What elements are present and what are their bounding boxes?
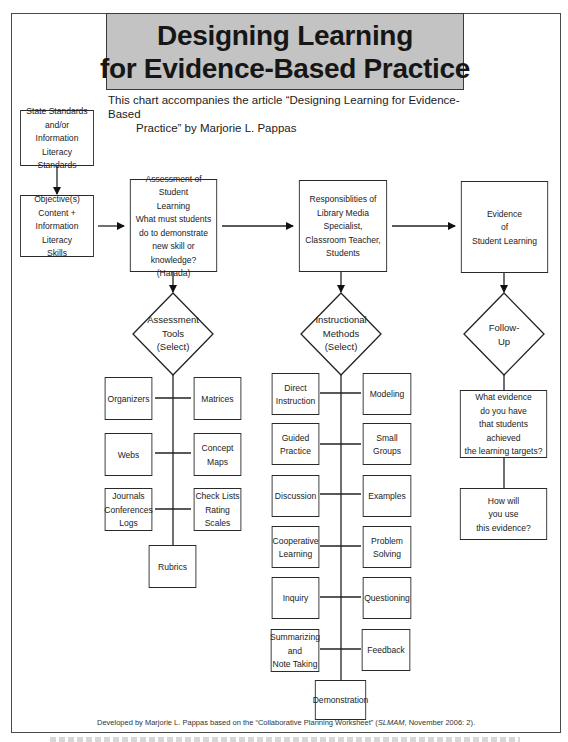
- tool-matrices: Matrices: [194, 377, 242, 420]
- assessment-tools-diamond: Assessment Tools (Select): [133, 313, 213, 354]
- use-evidence-question-box: How will you use this evidence?: [460, 488, 547, 540]
- responsibilities-box: Responsiblities of Library Media Special…: [299, 180, 387, 272]
- tool-organizers: Organizers: [105, 377, 153, 420]
- instructional-methods-diamond: Instructional Methods (Select): [301, 313, 381, 354]
- method-problem-solving: Problem Solving: [363, 526, 412, 568]
- method-feedback: Feedback: [362, 629, 411, 671]
- state-standards-box: State Standards and/or Information Liter…: [20, 110, 94, 166]
- evidence-box: Evidence of Student Learning: [461, 181, 548, 273]
- tool-checklists: Check Lists Rating Scales: [194, 488, 242, 531]
- footer-suffix: , November 2006: 2).: [405, 718, 475, 727]
- method-discussion: Discussion: [272, 475, 320, 517]
- method-guided-practice: Guided Practice: [272, 423, 320, 465]
- follow-up-diamond: Follow- Up: [464, 321, 544, 348]
- tool-concept-maps: Concept Maps: [194, 433, 242, 476]
- objectives-box: Objective(s) Content + Information Liter…: [20, 195, 94, 257]
- method-direct-instruction: Direct Instruction: [272, 373, 320, 415]
- evidence-question-box: What evidence do you have that students …: [460, 390, 547, 458]
- assessment-box: Assessment of Student Learning What must…: [130, 179, 217, 272]
- method-questioning: Questioning: [363, 577, 412, 619]
- footer-italic: SLMAM: [378, 718, 405, 727]
- method-modeling: Modeling: [363, 373, 412, 415]
- footer-prefix: Developed by Marjorie L. Pappas based on…: [97, 718, 378, 727]
- method-summarizing: Summarizing and Note Taking: [271, 629, 320, 672]
- footer-credit: Developed by Marjorie L. Pappas based on…: [11, 718, 561, 727]
- tool-rubrics: Rubrics: [149, 545, 197, 588]
- method-demonstration: Demonstration: [315, 680, 366, 720]
- method-small-groups: Small Groups: [363, 423, 412, 465]
- tool-webs: Webs: [105, 433, 153, 476]
- method-inquiry: Inquiry: [272, 577, 320, 619]
- method-cooperative-learning: Cooperative Learning: [272, 526, 320, 568]
- tool-journals: Journals Conferences Logs: [105, 488, 153, 531]
- method-examples: Examples: [363, 475, 412, 517]
- cutoff-text-strip: [50, 737, 520, 742]
